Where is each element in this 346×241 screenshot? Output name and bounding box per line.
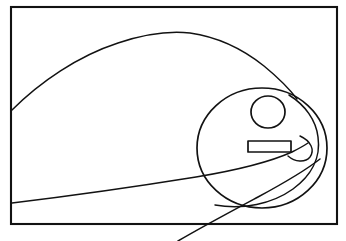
eye-circle [251, 96, 285, 128]
mouth-rectangle [248, 141, 291, 152]
top-sweeping-curve [12, 32, 297, 110]
large-head-circle [197, 88, 327, 208]
line-drawing-svg [0, 0, 346, 241]
inner-spiral-hook-curve [215, 95, 319, 207]
tail-diagonal-curve [178, 159, 320, 241]
drawing-canvas [0, 0, 346, 241]
